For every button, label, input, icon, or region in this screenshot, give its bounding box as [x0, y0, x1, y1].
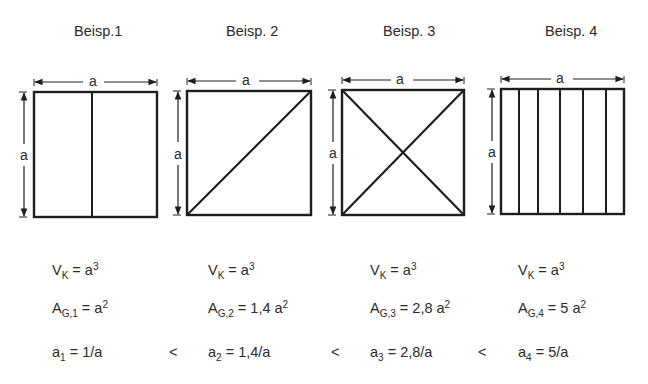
equation: = 1,4 a — [234, 300, 283, 316]
example-1-figure: a a — [19, 73, 157, 217]
symbol: V — [52, 262, 62, 278]
superscript: 2 — [580, 299, 586, 310]
subscript: G,3 — [380, 308, 396, 319]
width-label: a — [242, 72, 250, 88]
symbol: V — [370, 262, 380, 278]
symbol: A — [518, 300, 528, 316]
example-4-volume: VK = a3 — [518, 261, 565, 279]
symbol: a — [52, 344, 60, 360]
example-4-area: AG,4 = 5 a2 — [518, 299, 586, 317]
example-3-figure: a a — [328, 71, 464, 215]
subscript: G,2 — [218, 308, 234, 319]
symbol: V — [518, 262, 528, 278]
equation: = 5 a — [544, 300, 581, 316]
width-label: a — [556, 70, 564, 86]
example-3-area: AG,3 = 2,8 a2 — [370, 299, 450, 317]
equation: = 1/a — [66, 344, 103, 360]
superscript: 3 — [559, 261, 565, 272]
equation: = 2,8 a — [396, 300, 445, 316]
example-1-volume: VK = a3 — [52, 261, 99, 279]
example-4-ratio: a4 = 5/a — [518, 343, 568, 361]
equation: = a — [386, 262, 411, 278]
example-4-figure: a a — [487, 70, 624, 214]
example-3-volume: VK = a3 — [370, 261, 417, 279]
symbol: V — [208, 262, 218, 278]
example-2-figure: a a — [173, 72, 311, 215]
square-diagrams: a a a a a a — [0, 0, 648, 384]
symbol: a — [370, 344, 378, 360]
superscript: 2 — [445, 299, 451, 310]
example-2-area: AG,2 = 1,4 a2 — [208, 299, 288, 317]
example-1-area: AG,1 = a2 — [52, 299, 108, 317]
superscript: 3 — [249, 261, 255, 272]
equation: = a — [224, 262, 249, 278]
superscript: 2 — [283, 299, 289, 310]
superscript: 3 — [93, 261, 99, 272]
equation: = 1,4/a — [222, 344, 271, 360]
symbol: a — [518, 344, 526, 360]
superscript: 2 — [102, 299, 108, 310]
superscript: 3 — [411, 261, 417, 272]
less-than-3: < — [478, 343, 486, 361]
symbol: A — [370, 300, 380, 316]
equation: = a — [78, 300, 103, 316]
equation: = a — [534, 262, 559, 278]
width-label: a — [89, 73, 97, 89]
height-label: a — [488, 144, 496, 160]
width-label: a — [396, 71, 404, 87]
subscript: G,1 — [62, 308, 78, 319]
symbol: A — [52, 300, 62, 316]
example-1-ratio: a1 = 1/a — [52, 343, 102, 361]
less-than-1: < — [169, 343, 177, 361]
example-3-ratio: a3 = 2,8/a — [370, 343, 432, 361]
height-label: a — [329, 145, 337, 161]
subscript: G,4 — [528, 308, 544, 319]
equation: = 5/a — [532, 344, 569, 360]
example-2-ratio: a2 = 1,4/a — [208, 343, 270, 361]
equation: = 2,8/a — [384, 344, 433, 360]
height-label: a — [20, 147, 28, 163]
equation: = a — [68, 262, 93, 278]
less-than-2: < — [331, 343, 339, 361]
height-label: a — [174, 146, 182, 162]
symbol: a — [208, 344, 216, 360]
symbol: A — [208, 300, 218, 316]
example-2-volume: VK = a3 — [208, 261, 255, 279]
